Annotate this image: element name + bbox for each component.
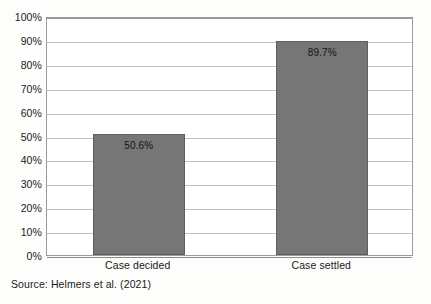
plot-area: 50.6%89.7% [46, 17, 413, 256]
x-tick-label: Case decided [46, 259, 230, 272]
source-note: Source: Helmers et al. (2021) [11, 278, 151, 291]
y-tick-label: 20% [0, 203, 42, 214]
y-tick-label: 90% [0, 36, 42, 47]
y-tick-label: 80% [0, 60, 42, 71]
y-tick-label: 0% [0, 251, 42, 262]
gridline [47, 257, 412, 258]
x-tick-label: Case settled [230, 259, 414, 272]
x-axis: Case decidedCase settled [46, 259, 413, 275]
y-tick-label: 50% [0, 132, 42, 143]
y-axis: 0%10%20%30%40%50%60%70%80%90%100% [0, 17, 42, 256]
y-tick-label: 70% [0, 84, 42, 95]
y-tick-label: 60% [0, 108, 42, 119]
y-tick-label: 40% [0, 155, 42, 166]
bars-layer: 50.6%89.7% [47, 18, 412, 255]
bar-value-label: 50.6% [94, 140, 184, 151]
bar-chart-figure: 0%10%20%30%40%50%60%70%80%90%100% 50.6%8… [0, 0, 431, 304]
bar-value-label: 89.7% [277, 47, 367, 58]
bar: 89.7% [276, 41, 368, 255]
y-tick-label: 30% [0, 179, 42, 190]
y-tick-label: 100% [0, 12, 42, 23]
y-tick-label: 10% [0, 227, 42, 238]
bar: 50.6% [93, 134, 185, 255]
